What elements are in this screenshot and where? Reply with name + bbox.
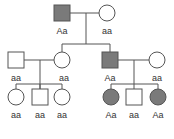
gen2-male-affected xyxy=(102,52,118,68)
gen1-female xyxy=(99,5,115,21)
genotype-label: aa xyxy=(57,110,67,120)
genotype-label: aa xyxy=(59,73,69,83)
genotype-label: Aa xyxy=(105,110,116,120)
gen3-female-affected-1 xyxy=(103,89,119,105)
genotype-label: aa xyxy=(11,73,21,83)
genotype-label: aa xyxy=(11,110,21,120)
gen2-female-1 xyxy=(54,52,70,68)
genotype-label: Aa xyxy=(56,26,67,36)
genotype-label: aa xyxy=(152,73,162,83)
genotype-label: Aa xyxy=(104,73,115,83)
gen3-female-affected-2 xyxy=(150,89,166,105)
pedigree-diagram: Aa aa aa aa Aa aa aa aa aa Aa aa Aa xyxy=(0,0,174,139)
gen3-female-2 xyxy=(54,89,70,105)
genotype-label: aa xyxy=(35,110,45,120)
gen3-male-2 xyxy=(126,89,142,105)
genotype-label: aa xyxy=(102,26,112,36)
gen2-male-1 xyxy=(8,52,24,68)
genotype-label: aa xyxy=(129,110,139,120)
gen2-female-2 xyxy=(149,52,165,68)
gen3-male-1 xyxy=(32,89,48,105)
gen1-male-affected xyxy=(54,5,70,21)
genotype-label: Aa xyxy=(152,110,163,120)
gen3-female-1 xyxy=(8,89,24,105)
